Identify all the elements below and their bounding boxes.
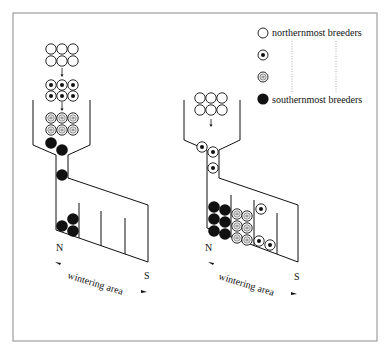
bird-filled xyxy=(45,137,57,149)
bird-filled xyxy=(219,216,231,228)
bird-dot xyxy=(46,91,56,101)
bird-filled xyxy=(56,169,68,181)
bird-dot xyxy=(68,80,78,90)
bird-open xyxy=(68,44,78,54)
open-circle xyxy=(46,125,56,135)
left-south-label: S xyxy=(144,270,150,281)
filled-circle xyxy=(56,169,68,181)
open-circle xyxy=(46,113,56,123)
open-circle xyxy=(57,113,67,123)
filled-circle xyxy=(56,220,68,232)
filled-circle xyxy=(45,137,57,149)
center-dot xyxy=(71,94,75,98)
north-arrowhead xyxy=(55,262,61,265)
wintering-box xyxy=(207,150,298,262)
filled-circle xyxy=(219,228,231,240)
center-dot xyxy=(60,83,64,87)
bird-equal xyxy=(68,125,78,135)
filled-circle xyxy=(67,213,79,225)
bird-dot xyxy=(46,80,56,90)
migration-diagram: N S wintering area N S wintering area no… xyxy=(0,0,389,353)
open-circle xyxy=(57,125,67,135)
center-dot xyxy=(60,94,64,98)
south-arrowhead xyxy=(291,292,297,295)
left-axis-label: wintering area xyxy=(66,269,125,296)
center-dot xyxy=(49,94,53,98)
right-panel xyxy=(184,93,298,295)
filled-circle xyxy=(208,225,220,237)
open-circle xyxy=(258,28,268,38)
bird-dot xyxy=(57,80,67,90)
left-north-label: N xyxy=(56,242,63,253)
open-circle xyxy=(46,44,56,54)
bird-equal xyxy=(46,125,56,135)
bird-equal xyxy=(232,233,242,243)
bird-open xyxy=(68,56,78,66)
bird-equal xyxy=(57,125,67,135)
center-dot xyxy=(211,150,215,154)
bird-equal xyxy=(46,113,56,123)
filled-circle xyxy=(56,144,68,156)
bird-equal xyxy=(68,113,78,123)
bird-filled xyxy=(67,213,79,225)
bird-equal xyxy=(258,72,268,82)
north-arrowhead xyxy=(208,262,214,265)
bird-dot xyxy=(68,91,78,101)
bird-dot xyxy=(258,50,268,60)
open-circle xyxy=(195,93,205,103)
right-south-label: S xyxy=(294,271,300,282)
bird-filled xyxy=(56,220,68,232)
bird-open xyxy=(46,44,56,54)
filled-circle xyxy=(257,93,268,104)
bird-open xyxy=(57,56,67,66)
bird-dot xyxy=(208,163,218,173)
bird-filled xyxy=(219,228,231,240)
filled-circle xyxy=(219,204,231,216)
bird-dot xyxy=(256,204,266,214)
bird-open xyxy=(217,105,227,115)
center-dot xyxy=(49,83,53,87)
open-circle xyxy=(217,93,227,103)
center-dot xyxy=(200,145,204,149)
bird-dot xyxy=(265,240,275,250)
right-north-label: N xyxy=(205,242,212,253)
bird-open xyxy=(217,93,227,103)
open-circle xyxy=(206,105,216,115)
center-dot xyxy=(268,243,272,247)
open-circle xyxy=(57,44,67,54)
bird-filled xyxy=(208,213,220,225)
center-dot xyxy=(211,166,215,170)
filled-circle xyxy=(219,216,231,228)
center-dot xyxy=(257,239,261,243)
bird-open xyxy=(195,93,205,103)
bird-filled xyxy=(219,204,231,216)
bird-open xyxy=(57,44,67,54)
arrow-head xyxy=(60,109,63,112)
open-circle xyxy=(206,93,216,103)
open-circle xyxy=(68,125,78,135)
open-circle xyxy=(57,56,67,66)
filled-circle xyxy=(67,225,79,237)
bird-filled xyxy=(257,93,268,104)
bird-equal xyxy=(232,209,242,219)
bird-filled xyxy=(67,225,79,237)
filled-circle xyxy=(208,201,220,213)
bird-filled xyxy=(208,201,220,213)
center-dot xyxy=(261,53,265,57)
bird-equal xyxy=(242,223,252,233)
open-circle xyxy=(46,56,56,66)
bird-dot xyxy=(254,236,264,246)
bird-open xyxy=(258,28,268,38)
open-circle xyxy=(232,221,242,231)
bird-open xyxy=(195,105,205,115)
open-circle xyxy=(68,44,78,54)
legend-label-northernmost: northernmost breeders xyxy=(272,27,362,38)
open-circle xyxy=(195,105,205,115)
center-dot xyxy=(71,83,75,87)
bird-open xyxy=(46,56,56,66)
right-axis-label: wintering area xyxy=(217,270,276,297)
open-circle xyxy=(217,105,227,115)
bird-filled xyxy=(208,225,220,237)
bird-dot xyxy=(208,147,218,157)
bird-open xyxy=(206,93,216,103)
